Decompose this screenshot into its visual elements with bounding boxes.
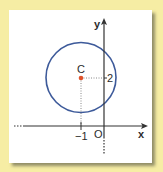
center-label: C [77, 63, 85, 75]
y-tick-label: 2 [107, 72, 113, 84]
x-tick-label: −1 [75, 130, 88, 142]
coordinate-plane-diagram: C 2 −1 O x y [0, 0, 163, 172]
y-axis-label: y [94, 18, 101, 30]
x-axis-label: x [138, 128, 145, 140]
center-point [79, 76, 84, 81]
origin-label: O [94, 128, 103, 140]
